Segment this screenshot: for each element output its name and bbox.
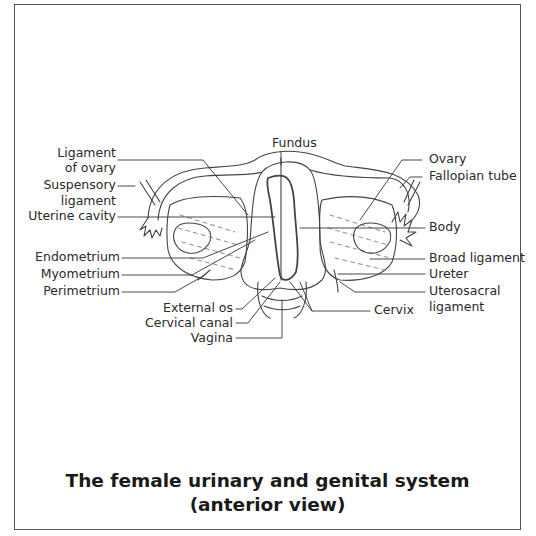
uterus-outline xyxy=(241,162,326,290)
label-endometrium: Endometrium xyxy=(35,250,120,264)
figure-subtitle: (anterior view) xyxy=(14,494,521,515)
label-external-os: External os xyxy=(163,301,233,315)
leader-vagina xyxy=(236,300,282,338)
label-uterosacral-ligament-1: Uterosacral xyxy=(429,284,501,298)
label-ligament-of-ovary-1: Ligament xyxy=(57,146,116,160)
label-ovary: Ovary xyxy=(429,152,466,166)
left-ovary xyxy=(174,223,211,253)
label-ureter: Ureter xyxy=(429,267,468,281)
label-suspensory-ligament-2: ligament xyxy=(61,194,116,208)
label-myometrium: Myometrium xyxy=(41,267,120,281)
uterine-cavity xyxy=(267,176,298,280)
left-broad-ligament xyxy=(167,196,247,280)
leader-external-os xyxy=(236,278,275,309)
figure-title: The female urinary and genital system xyxy=(14,470,521,491)
label-suspensory-ligament-1: Suspensory xyxy=(43,178,116,192)
label-broad-ligament: Broad ligament xyxy=(429,251,525,265)
label-fallopian-tube: Fallopian tube xyxy=(429,169,517,183)
right-broad-ligament xyxy=(320,197,397,281)
label-fundus: Fundus xyxy=(272,136,317,150)
label-uterine-cavity: Uterine cavity xyxy=(28,209,116,223)
leader-uterosacral-ligament xyxy=(340,282,425,292)
label-perimetrium: Perimetrium xyxy=(43,284,120,298)
label-vagina: Vagina xyxy=(191,331,233,345)
label-cervix: Cervix xyxy=(374,303,414,317)
leader-perimetrium xyxy=(122,275,205,292)
leader-ligament-of-ovary xyxy=(118,160,248,215)
label-cervical-canal: Cervical canal xyxy=(145,316,233,330)
label-ligament-of-ovary-2: of ovary xyxy=(65,161,116,175)
label-body: Body xyxy=(429,220,461,234)
label-uterosacral-ligament-2: ligament xyxy=(429,300,484,314)
left-fimbriae xyxy=(140,218,162,238)
